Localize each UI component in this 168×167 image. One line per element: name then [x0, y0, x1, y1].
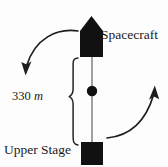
- spacecraft-separation-diagram: Spacecraft Upper Stage 330 m: [0, 0, 168, 167]
- center-of-mass-dot-icon: [87, 86, 97, 96]
- distance-unit: m: [34, 89, 43, 103]
- upper-stage-label: Upper Stage: [4, 143, 71, 157]
- spacecraft-body-icon: [80, 16, 103, 57]
- rotation-arrow-right-head-icon: [149, 86, 159, 100]
- separation-distance-label: 330 m: [12, 90, 43, 103]
- distance-brace-icon: [69, 58, 78, 145]
- rotation-arrow-right-shaft-icon: [107, 95, 154, 138]
- rotation-arrow-left-head-icon: [21, 61, 31, 75]
- distance-value: 330: [12, 89, 34, 103]
- upper-stage-body-icon: [81, 142, 103, 165]
- spacecraft-label: Spacecraft: [101, 28, 158, 42]
- rotation-arrow-left-shaft-icon: [27, 30, 79, 66]
